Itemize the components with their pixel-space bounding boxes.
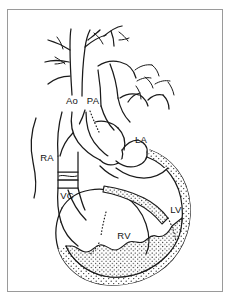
left-pericardial-line	[31, 118, 36, 198]
label-la: LA	[135, 134, 147, 145]
pa-trunk-detail	[98, 64, 130, 130]
label-ra: RA	[40, 152, 54, 163]
vena-cava-band	[58, 172, 78, 188]
label-pa: PA	[87, 95, 100, 106]
pulmonary-veins	[98, 61, 174, 109]
heart-diagram: Ao PA RA VC LA LV RV	[0, 0, 233, 302]
label-rv: RV	[117, 230, 131, 241]
label-ao: Ao	[66, 95, 78, 106]
figure-root: Ao PA RA VC LA LV RV	[0, 0, 233, 302]
label-vc: VC	[60, 190, 74, 201]
label-lv: LV	[170, 204, 182, 215]
